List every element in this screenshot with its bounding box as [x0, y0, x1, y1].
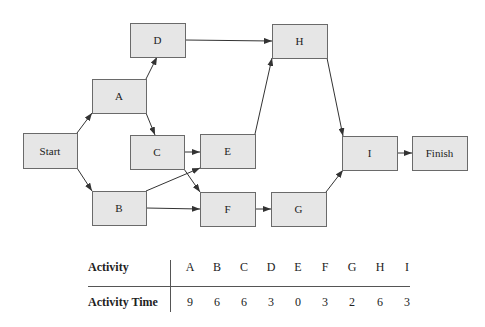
activity-cell-h: H [376, 260, 385, 274]
activity-cell-b: B [213, 260, 221, 274]
activity-cell-e: E [294, 260, 301, 274]
activity-time-cell-h: 6 [377, 295, 383, 309]
activity-cell-g: G [348, 260, 357, 274]
activity-time-cell-e: 0 [295, 295, 301, 309]
table-horizontal-rule [88, 286, 410, 287]
activity-time-cell-d: 3 [268, 295, 274, 309]
activity-cell-i: I [405, 260, 409, 274]
activity-time-cell-g: 2 [349, 295, 355, 309]
activity-time-cell-b: 6 [214, 295, 220, 309]
activity-cell-c: C [240, 260, 248, 274]
activity-cell-a: A [186, 260, 195, 274]
activity-time-cell-c: 6 [241, 295, 247, 309]
activity-time-cell-a: 9 [187, 295, 193, 309]
table-header-activity: Activity [88, 260, 129, 274]
activity-time-table: Activity Activity Time ABCDEFGHI 9663032… [0, 0, 485, 327]
activity-cell-d: D [267, 260, 276, 274]
table-header-activity-time: Activity Time [88, 295, 158, 309]
activity-time-cell-i: 3 [404, 295, 410, 309]
activity-cell-f: F [322, 260, 329, 274]
table-vertical-rule [170, 260, 171, 312]
activity-time-cell-f: 3 [322, 295, 328, 309]
